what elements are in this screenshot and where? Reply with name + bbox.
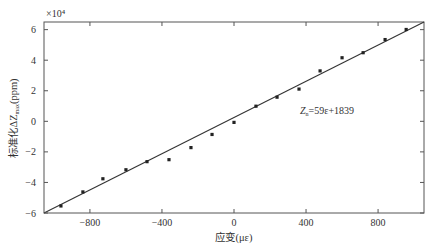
data-point — [340, 56, 343, 59]
y-tick-label: 0 — [31, 116, 36, 127]
fit-line — [44, 22, 424, 213]
x-tick-label: −400 — [152, 217, 173, 228]
data-point — [101, 177, 104, 180]
x-tick-label: −800 — [80, 217, 101, 228]
data-point — [145, 160, 148, 163]
x-tick-label: 800 — [371, 217, 386, 228]
data-point — [189, 146, 192, 149]
data-point — [318, 69, 321, 72]
data-point — [124, 168, 127, 171]
x-tick-label: 400 — [299, 217, 314, 228]
y-multiplier: ×10⁴ — [46, 8, 66, 19]
data-point — [297, 87, 300, 90]
y-tick-label: −2 — [25, 146, 36, 157]
data-point — [254, 105, 257, 108]
y-axis-label: 标准化ΔZmax(ppm) — [7, 78, 20, 158]
strain-vs-impedance-chart: −800−4000400800−6−4−20246 ×10⁴ 应变(με) 标准… — [0, 0, 437, 249]
fit-equation: Zn=59ε+1839 — [300, 105, 354, 117]
data-point — [362, 51, 365, 54]
y-tick-label: 2 — [31, 85, 36, 96]
data-point — [405, 28, 408, 31]
data-point — [81, 190, 84, 193]
y-tick-label: −6 — [25, 208, 36, 219]
data-point — [232, 121, 235, 124]
x-tick-label: 0 — [232, 217, 237, 228]
data-point — [59, 204, 62, 207]
y-tick-label: 4 — [31, 55, 36, 66]
y-tick-label: −4 — [25, 177, 36, 188]
data-point — [275, 96, 278, 99]
data-point — [383, 38, 386, 41]
data-point — [210, 133, 213, 136]
regression-line — [44, 22, 424, 213]
y-tick-label: 6 — [31, 24, 36, 35]
data-point — [167, 158, 170, 161]
x-axis-label: 应变(με) — [215, 231, 253, 244]
